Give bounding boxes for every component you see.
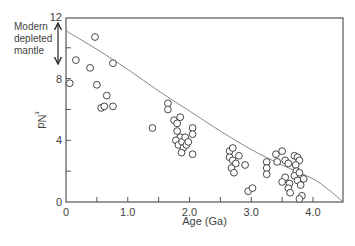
chart: 04812 01.02.03.04.0 Age (Ga) εNd Modern … [0,0,355,246]
x-tick-label: 1.0 [120,206,135,218]
data-points [66,34,307,203]
y-tick-label: 8 [56,73,62,85]
double-arrow-icon [55,23,62,64]
data-point [72,57,79,64]
data-point [149,125,156,132]
data-point [296,196,303,203]
data-point [189,151,196,158]
data-point [285,160,292,167]
data-point [229,145,236,152]
data-point [110,103,117,110]
x-tick-label: 3.0 [244,206,259,218]
data-point [93,81,100,88]
data-point [189,131,196,138]
modern-depleted-mantle-annotation: Modern depleted mantle [14,21,62,64]
y-tick-label: 12 [50,11,62,23]
data-point [300,175,307,182]
data-point [164,106,171,113]
data-point [174,128,181,135]
data-point [242,162,249,169]
x-tick-label: 4.0 [305,206,320,218]
annotation-line-3: mantle [14,45,44,56]
data-point [185,138,192,145]
data-point [177,114,184,121]
data-point [110,60,117,67]
annotation-line-1: Modern [14,21,48,32]
data-point [174,120,181,127]
annotation-line-2: depleted [14,33,52,44]
data-point [101,103,108,110]
data-point [297,182,304,189]
data-point [274,159,281,166]
data-point [92,34,99,41]
y-axis: 04812 [50,11,71,208]
data-point [249,185,256,192]
data-point [231,169,238,176]
svg-text:εNd: εNd [34,111,48,128]
x-axis-label: Age (Ga) [182,215,227,227]
data-point [87,64,94,71]
data-point [236,152,243,159]
data-point [66,80,73,87]
y-axis-label: εNd [34,111,48,128]
y-tick-label: 4 [56,134,62,146]
data-point [279,148,286,155]
y-axis-label-main: Nd [36,115,48,129]
data-point [279,179,286,186]
data-point [178,149,185,156]
y-tick-label: 0 [56,196,62,208]
data-point [287,189,294,196]
x-tick-label: 0 [63,206,69,218]
data-point [296,169,303,176]
data-point [103,92,110,99]
data-point [273,151,280,158]
data-point [263,171,270,178]
